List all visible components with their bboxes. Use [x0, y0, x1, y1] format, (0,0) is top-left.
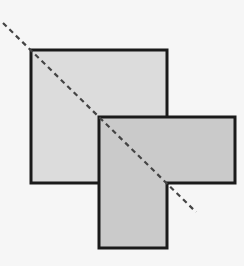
diagram-canvas — [0, 0, 244, 266]
